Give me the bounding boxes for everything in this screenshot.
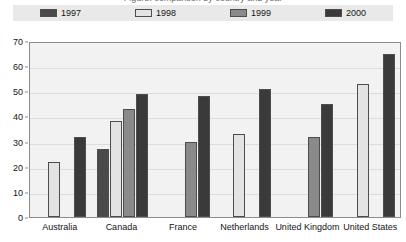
y-axis-tick-label: 0 xyxy=(18,214,23,223)
bar-2000 xyxy=(321,104,333,217)
x-axis-label: France xyxy=(152,219,214,239)
bar-1998 xyxy=(48,162,60,217)
legend-label: 1997 xyxy=(61,9,81,18)
legend-label: 2000 xyxy=(346,9,366,18)
x-axis-label: United States xyxy=(339,219,401,239)
bar-group-netherlands xyxy=(215,43,277,217)
legend-label: 1999 xyxy=(251,9,271,18)
bar-group-canada xyxy=(92,43,154,217)
legend-item-1998: 1998 xyxy=(135,9,176,18)
bar-chart-figure: Figure: comparison by country and year 1… xyxy=(0,0,406,242)
x-axis-label: Canada xyxy=(91,219,153,239)
y-axis-tick-label: 20 xyxy=(13,163,23,172)
y-axis-tick-label: 40 xyxy=(13,113,23,122)
bar-1999 xyxy=(123,109,135,217)
bar-2000 xyxy=(259,89,271,217)
bar-2000 xyxy=(198,96,210,217)
bar-group-france xyxy=(153,43,215,217)
y-axis-tick-label: 30 xyxy=(13,138,23,147)
bar-group-united-kingdom xyxy=(277,43,339,217)
x-axis-label: Netherlands xyxy=(214,219,276,239)
y-axis-tick-mark xyxy=(25,218,28,219)
y-axis: 010203040506070 xyxy=(0,42,27,218)
legend-swatch-icon xyxy=(230,9,247,17)
legend-item-1997: 1997 xyxy=(40,9,81,18)
x-axis-label: Australia xyxy=(29,219,91,239)
y-axis-tick-mark xyxy=(25,92,28,93)
bar-2000 xyxy=(136,94,148,217)
legend-swatch-icon xyxy=(135,9,152,17)
x-axis-label: United Kingdom xyxy=(275,219,339,239)
y-axis-tick-mark xyxy=(25,117,28,118)
bar-1999 xyxy=(185,142,197,217)
bar-1998 xyxy=(357,84,369,217)
bar-group-united-states xyxy=(338,43,400,217)
y-axis-tick-mark xyxy=(25,192,28,193)
y-axis-tick-label: 60 xyxy=(13,63,23,72)
bar-2000 xyxy=(383,54,395,217)
y-axis-tick-mark xyxy=(25,42,28,43)
bar-1999 xyxy=(308,137,320,217)
bar-2000 xyxy=(74,137,86,217)
x-axis: AustraliaCanadaFranceNetherlandsUnited K… xyxy=(29,219,401,239)
bar-group-australia xyxy=(30,43,92,217)
plot-area xyxy=(29,42,401,218)
bar-1997 xyxy=(97,149,109,217)
legend-item-1999: 1999 xyxy=(230,9,271,18)
chart-legend: 1997199819992000 xyxy=(13,5,393,21)
y-axis-tick-label: 70 xyxy=(13,38,23,47)
chart-title: Figure: comparison by country and year xyxy=(0,0,406,3)
legend-swatch-icon xyxy=(325,9,342,17)
legend-item-2000: 2000 xyxy=(325,9,366,18)
bar-1998 xyxy=(110,121,122,217)
y-axis-tick-mark xyxy=(25,142,28,143)
legend-swatch-icon xyxy=(40,9,57,17)
y-axis-tick-mark xyxy=(25,167,28,168)
y-axis-tick-mark xyxy=(25,67,28,68)
y-axis-tick-label: 10 xyxy=(13,188,23,197)
y-axis-tick-label: 50 xyxy=(13,88,23,97)
bar-1998 xyxy=(233,134,245,217)
legend-label: 1998 xyxy=(156,9,176,18)
bar-groups xyxy=(30,43,400,217)
